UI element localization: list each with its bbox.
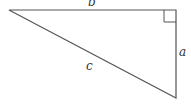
triangle-shape <box>9 10 176 98</box>
label-c: c <box>86 59 93 73</box>
right-triangle-diagram: b a c <box>0 0 191 106</box>
label-a: a <box>179 45 186 59</box>
label-b: b <box>88 0 96 9</box>
right-angle-marker <box>164 10 176 22</box>
